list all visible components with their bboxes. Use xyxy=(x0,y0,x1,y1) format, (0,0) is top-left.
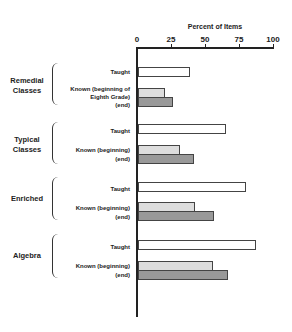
tick-mark xyxy=(239,44,240,48)
row-label-known-begin-2: Eighth Grade) xyxy=(90,93,130,101)
tick-label-75: 75 xyxy=(235,35,244,44)
row-label-known-begin: Known (beginning) xyxy=(76,204,130,212)
row-label-end: (end) xyxy=(115,101,130,109)
row-label-known-begin: Known (beginning) xyxy=(76,146,130,154)
row-label-known-begin: Known (beginning of xyxy=(70,85,130,93)
group-label-line: Classes xyxy=(2,86,52,96)
bar-algebra-taught xyxy=(138,240,256,250)
tick-mark xyxy=(273,44,274,48)
bar-remedial-known-end xyxy=(138,97,173,107)
bar-algebra-known-end xyxy=(138,270,228,280)
group-label-line: Typical xyxy=(2,135,52,145)
row-label-end: (end) xyxy=(115,271,130,279)
tick-mark xyxy=(171,44,172,48)
row-label-taught: Taught xyxy=(110,68,130,76)
tick-label-0: 0 xyxy=(135,35,139,44)
group-label-enriched: Enriched xyxy=(2,194,52,204)
row-label-taught: Taught xyxy=(110,243,130,251)
row-label-taught: Taught xyxy=(110,185,130,193)
tick-label-100: 100 xyxy=(266,35,279,44)
group-label-remedial: Remedial Classes xyxy=(2,76,52,96)
bar-remedial-taught xyxy=(138,67,190,77)
tick-label-25: 25 xyxy=(167,35,176,44)
group-label-line: Enriched xyxy=(2,194,52,204)
bar-enriched-known-end xyxy=(138,211,214,221)
brace xyxy=(52,177,59,220)
group-label-algebra: Algebra xyxy=(2,251,52,261)
brace xyxy=(52,63,59,105)
group-label-typical: Typical Classes xyxy=(2,135,52,155)
brace xyxy=(52,122,59,164)
row-label-known-begin: Known (beginning) xyxy=(76,262,130,270)
row-label-end: (end) xyxy=(115,155,130,163)
bar-enriched-taught xyxy=(138,182,246,192)
axis-title: Percent of Items xyxy=(160,23,270,30)
tick-mark xyxy=(205,44,206,48)
brace xyxy=(52,234,59,278)
row-label-end: (end) xyxy=(115,213,130,221)
bar-typical-known-end xyxy=(138,154,194,164)
row-label-taught: Taught xyxy=(110,127,130,135)
group-label-line: Algebra xyxy=(2,251,52,261)
bar-typical-taught xyxy=(138,124,226,134)
group-label-line: Classes xyxy=(2,145,52,155)
group-label-line: Remedial xyxy=(2,76,52,86)
tick-label-50: 50 xyxy=(201,35,210,44)
